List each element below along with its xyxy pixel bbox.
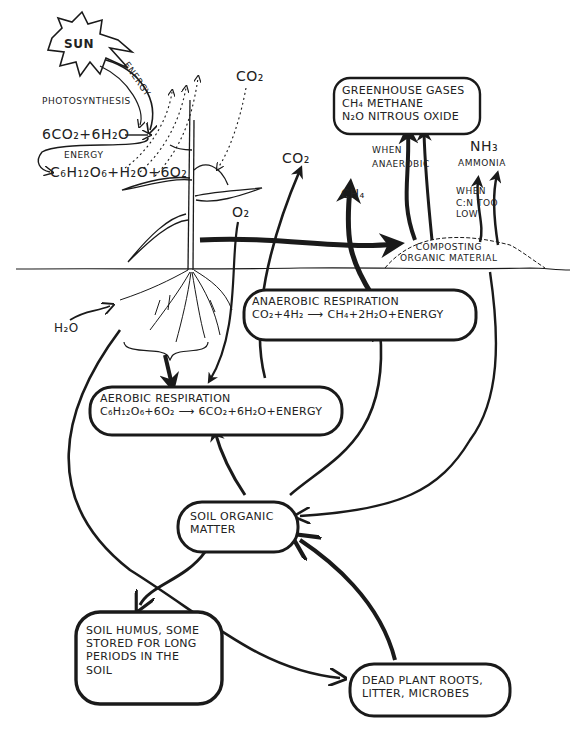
ground-line bbox=[16, 268, 570, 270]
ch4-label: CH₄ bbox=[341, 188, 365, 202]
plant-icon bbox=[122, 100, 262, 270]
plant-to-compost-arrow bbox=[200, 239, 395, 245]
photosynthesis-reactants: 6CO₂+6H₂O bbox=[42, 126, 130, 142]
co2-right-label: CO₂ bbox=[282, 150, 310, 166]
cn-when: WHEN bbox=[456, 186, 498, 198]
greenhouse-text: GREENHOUSE GASES CH₄ METHANE N₂O NITROUS… bbox=[342, 84, 464, 124]
dead-line2: LITTER, MICROBES bbox=[362, 687, 483, 700]
compost-label: COMPOSTING ORGANIC MATERIAL bbox=[400, 242, 498, 265]
co2-up-arrow bbox=[260, 170, 300, 378]
cn-ratio: C:N TOO bbox=[456, 198, 498, 210]
anaerobic-text: ANAEROBIC bbox=[372, 158, 430, 172]
humus-line1: SOIL HUMUS, SOME bbox=[86, 624, 199, 637]
dead-to-som-arrow bbox=[300, 540, 395, 660]
ammonia-label: AMMONIA bbox=[458, 158, 506, 168]
humus-line4: SOIL bbox=[86, 664, 199, 677]
greenhouse-title: GREENHOUSE GASES bbox=[342, 84, 464, 97]
som-to-aerobic-arrow bbox=[215, 432, 245, 495]
compost-line1: COMPOSTING bbox=[400, 242, 498, 253]
when-text: WHEN bbox=[372, 144, 430, 158]
photosynthesis-products: C₆H₁₂O₆+H₂O+6O₂ bbox=[50, 164, 187, 180]
humus-text: SOIL HUMUS, SOME STORED FOR LONG PERIODS… bbox=[86, 624, 199, 677]
anaerobic-text: ANAEROBIC RESPIRATION CO₂+4H₂ ⟶ CH₄+2H₂O… bbox=[252, 295, 444, 321]
soil-organic-text: SOIL ORGANIC MATTER bbox=[190, 510, 274, 536]
nh3-label: NH₃ bbox=[470, 138, 498, 154]
dead-matter-text: DEAD PLANT ROOTS, LITTER, MICROBES bbox=[362, 674, 483, 700]
cn-low: LOW bbox=[456, 209, 498, 221]
humus-line2: STORED FOR LONG bbox=[86, 637, 199, 650]
o2-arrow bbox=[210, 222, 238, 380]
aerobic-equation: C₆H₁₂O₆+6O₂ ⟶ 6CO₂+6H₂O+ENERGY bbox=[100, 405, 322, 418]
greenhouse-nitrous-oxide: N₂O NITROUS OXIDE bbox=[342, 110, 464, 123]
greenhouse-methane: CH₄ METHANE bbox=[342, 97, 464, 110]
when-anaerobic-label: WHEN ANAEROBIC bbox=[372, 144, 430, 171]
humus-line3: PERIODS IN THE bbox=[86, 650, 199, 663]
photosynthesis-label: PHOTOSYNTHESIS bbox=[42, 96, 131, 106]
aerobic-text: AEROBIC RESPIRATION C₆H₁₂O₆+6O₂ ⟶ 6CO₂+6… bbox=[100, 392, 322, 418]
dead-line1: DEAD PLANT ROOTS, bbox=[362, 674, 483, 687]
compost-line2: ORGANIC MATERIAL bbox=[400, 253, 498, 264]
som-line2: MATTER bbox=[190, 523, 274, 536]
aerobic-title: AEROBIC RESPIRATION bbox=[100, 392, 322, 405]
som-line1: SOIL ORGANIC bbox=[190, 510, 274, 523]
roots-to-aerobic-arrow bbox=[165, 355, 172, 385]
h2o-arrow bbox=[70, 306, 110, 320]
photosynthesis-energy: ENERGY bbox=[64, 150, 103, 160]
cn-condition-label: WHEN C:N TOO LOW bbox=[456, 186, 498, 221]
roots-icon bbox=[120, 270, 232, 342]
anaerobic-title: ANAEROBIC RESPIRATION bbox=[252, 295, 444, 308]
o2-label: O₂ bbox=[232, 204, 250, 220]
ch4-up-arrow bbox=[348, 188, 372, 295]
h2o-label: H₂O bbox=[54, 322, 79, 336]
co2-top-label: CO₂ bbox=[236, 68, 264, 84]
anaerobic-equation: CO₂+4H₂ ⟶ CH₄+2H₂O+ENERGY bbox=[252, 308, 444, 321]
sun-label: SUN bbox=[64, 38, 94, 52]
